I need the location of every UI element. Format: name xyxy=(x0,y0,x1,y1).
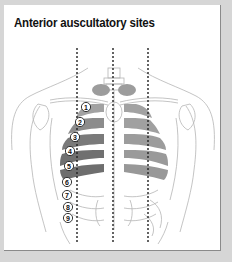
site-marker-1: 1 xyxy=(81,102,90,111)
svg-text:7: 7 xyxy=(65,192,69,199)
site-marker-7: 7 xyxy=(62,190,71,199)
site-marker-2: 2 xyxy=(75,117,84,126)
svg-text:3: 3 xyxy=(73,134,77,141)
site-marker-3: 3 xyxy=(70,132,79,141)
right-lung-bands xyxy=(124,104,168,180)
site-marker-5: 5 xyxy=(64,161,73,170)
svg-text:8: 8 xyxy=(66,204,70,211)
guide-lines xyxy=(77,48,148,244)
svg-text:2: 2 xyxy=(78,119,82,126)
site-marker-8: 8 xyxy=(63,202,72,211)
svg-text:6: 6 xyxy=(65,179,69,186)
svg-text:9: 9 xyxy=(66,215,70,222)
site-marker-9: 9 xyxy=(63,213,72,222)
site-marker-4: 4 xyxy=(65,146,74,155)
chest-illustration: 1 2 3 4 5 6 7 8 9 xyxy=(0,0,232,262)
svg-text:5: 5 xyxy=(67,163,71,170)
svg-text:4: 4 xyxy=(68,148,72,155)
site-marker-6: 6 xyxy=(62,177,71,186)
svg-text:1: 1 xyxy=(84,104,88,111)
